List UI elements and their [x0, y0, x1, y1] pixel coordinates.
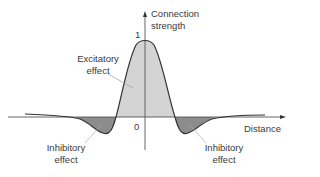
- excitatory-label: Excitatory effect: [72, 53, 124, 77]
- y-axis-arrow-icon: [143, 11, 147, 17]
- tick-one: 1: [135, 29, 140, 41]
- x-axis-label: Distance: [244, 123, 281, 135]
- x-axis-arrow-icon: [280, 115, 286, 119]
- y-axis-label-line2: strength: [151, 20, 199, 32]
- inhibitory-left-label-line1: Inhibitory: [40, 142, 92, 154]
- excitatory-label-line2: effect: [72, 65, 124, 77]
- inhibitory-right-label: Inhibitory effect: [198, 142, 250, 166]
- inhibitory-left-label-line2: effect: [40, 154, 92, 166]
- tick-zero: 0: [134, 121, 139, 133]
- y-axis-label: Connection strength: [151, 8, 199, 32]
- excitatory-label-line1: Excitatory: [72, 53, 124, 65]
- inhibitory-right-label-line2: effect: [198, 154, 250, 166]
- y-axis-label-line1: Connection: [151, 8, 199, 20]
- inhibitory-right-label-line1: Inhibitory: [198, 142, 250, 154]
- inhibitory-left-label: Inhibitory effect: [40, 142, 92, 166]
